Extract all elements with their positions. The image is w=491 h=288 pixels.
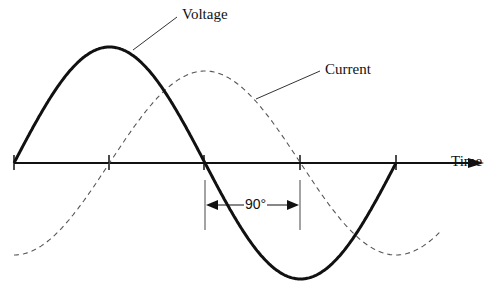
time-axis-label: Time — [451, 153, 482, 170]
waveform-canvas — [0, 0, 491, 288]
phase-diagram: Voltage Current Time 90° — [0, 0, 491, 288]
phase-difference-label: 90° — [244, 196, 267, 212]
current-leader-line — [256, 71, 320, 99]
voltage-leader-line — [133, 17, 177, 50]
voltage-label: Voltage — [182, 6, 228, 23]
dimension-arrow-left-icon — [206, 200, 218, 210]
current-label: Current — [325, 61, 371, 78]
dimension-arrow-right-icon — [287, 200, 299, 210]
